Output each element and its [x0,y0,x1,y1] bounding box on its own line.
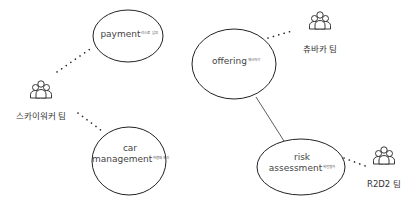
offering-node-label: offering제시하기 [204,56,268,67]
car-management-node-label: car management차량의 관리 [92,143,168,165]
car-management-title-line2: management [92,154,152,164]
payment-node-label: payment리스료 납부 [98,29,160,40]
skywalker-team-label: 스카이워커 팀 [16,109,67,121]
offering-title: offering [212,56,247,66]
payment-title: payment [100,29,140,39]
payment-subtitle: 리스료 납부 [141,31,157,35]
r2d2-team-icon [374,147,395,164]
car-management-subtitle: 차량의 관리 [153,156,169,160]
risk-assessment-subtitle: 위험평가 [323,165,335,169]
risk-assessment-node-label: risk assessment위험평가 [262,152,342,174]
r2d2-risk-connector [344,158,368,167]
risk-assessment-title-line2: assessment [269,163,322,173]
chewbacca-team-label: 츄바카 팀 [303,42,338,54]
skywalker-car-connector [78,113,102,131]
offering-risk-connector [256,97,284,141]
offering-subtitle: 제시하기 [248,58,260,62]
skywalker-team-icon [31,81,52,98]
risk-assessment-title-line1: risk [262,152,342,163]
diagram-canvas [0,0,412,202]
car-management-title-line1: car [92,143,168,154]
skywalker-payment-connector [57,47,93,72]
r2d2-team-label: R2D2 팀 [367,177,401,189]
chewbacca-offering-connector [268,31,292,38]
chewbacca-team-icon [310,12,331,29]
